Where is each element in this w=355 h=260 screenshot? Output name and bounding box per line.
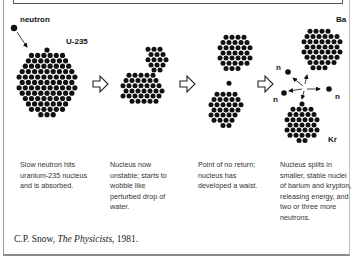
caption-stage-4: Nucleus splits in smaller, stable nuclei… [280,160,352,223]
barium-nucleus [302,29,343,71]
waisted-nucleus [209,35,253,128]
caption-stage-3: Point of no return; nucleus has develope… [198,160,258,192]
caption-stage-2: Nucleus now unstable; starts to wobble l… [110,160,172,213]
neutron-n-label-2: n [273,95,278,104]
neutron-n-label-1: n [276,63,281,72]
u235-nucleus [17,47,78,117]
emitted-neutrons [281,69,332,99]
neutron-label: neutron [20,15,50,24]
wobbling-nucleus [121,47,169,104]
citation-work: The Physicists [57,234,112,244]
caption-stage-1: Slow neutron hits uranium-235 nucleus an… [20,160,100,192]
krypton-nucleus [285,102,320,144]
fission-diagram: neutron U-235 Ba Kr n n n [0,0,355,160]
neutron-n-label-3: n [335,92,340,101]
citation: C.P. Snow, The Physicists, 1981. [14,234,138,244]
citation-author: C.P. Snow, [14,234,57,244]
barium-label: Ba [336,15,347,24]
krypton-label: Kr [328,135,337,144]
u235-label: U-235 [66,37,88,46]
incoming-neutron [11,25,27,47]
citation-year: , 1981. [112,234,138,244]
stage-arrow-1-icon [93,76,108,92]
stage-arrow-3-icon [258,76,273,92]
stage-arrow-2-icon [180,76,195,92]
